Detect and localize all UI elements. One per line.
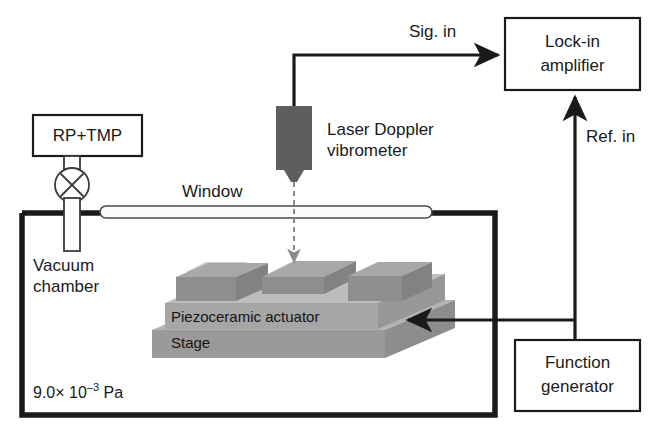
reference-in-label: Ref. in [586, 127, 635, 146]
function-generator-label-line2: generator [541, 377, 614, 396]
window-bar [100, 206, 432, 218]
lockin-amplifier-box: Lock-in amplifier [505, 18, 640, 90]
vibrometer-label-line2: vibrometer [327, 141, 408, 160]
function-generator-label-line1: Function [545, 353, 610, 372]
schematic-canvas: RP+TMP Window Vacuum chamber 9.0× 10–3 P [0, 0, 670, 439]
sample-block-center-front [262, 277, 324, 294]
experimental-setup-diagram: RP+TMP Window Vacuum chamber 9.0× 10–3 P [0, 0, 670, 439]
chamber-window: Window [100, 182, 432, 218]
pressure-exponent: –3 [87, 381, 99, 393]
function-generator-box: Function generator [515, 340, 640, 411]
stage-assembly: Piezoceramic actuator Stage [152, 261, 455, 358]
lockin-amplifier-outline [505, 18, 640, 90]
pressure-unit: Pa [104, 384, 124, 401]
vacuum-chamber-label-line1: Vacuum [33, 256, 94, 275]
pump-box: RP+TMP [33, 115, 142, 156]
reference-in-connection: Ref. in [575, 97, 635, 340]
vibrometer-body [276, 106, 312, 170]
vacuum-chamber-label: Vacuum chamber [33, 256, 99, 296]
vibrometer-label-line1: Laser Doppler [327, 120, 434, 139]
pressure-mantissa: 9.0× 10 [33, 384, 87, 401]
pressure-reading: 9.0× 10–3 Pa [33, 381, 123, 401]
vacuum-pipe-and-valve [55, 156, 89, 251]
piezo-label: Piezoceramic actuator [171, 308, 319, 325]
signal-in-label: Sig. in [409, 22, 456, 41]
sample-block-right-front [348, 276, 402, 301]
window-label: Window [182, 182, 243, 201]
lockin-amplifier-label-line1: Lock-in [545, 32, 600, 51]
pump-box-label: RP+TMP [53, 126, 122, 145]
laser-doppler-vibrometer: Laser Doppler vibrometer [276, 106, 434, 182]
vibrometer-nose [284, 170, 304, 182]
signal-in-wire [294, 55, 498, 106]
lockin-amplifier-label-line2: amplifier [540, 56, 605, 75]
function-generator-outline [515, 340, 640, 411]
signal-in-connection: Sig. in [294, 22, 498, 106]
sample-block-left-front [176, 277, 236, 301]
vacuum-chamber-label-line2: chamber [33, 277, 99, 296]
stage-label: Stage [171, 334, 210, 351]
pressure-text: 9.0× 10–3 Pa [33, 381, 123, 401]
pipe-lower-stub [64, 198, 80, 251]
